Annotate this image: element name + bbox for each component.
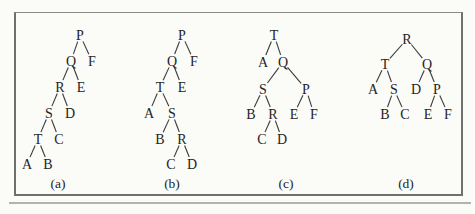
- tree-c-edge-R-C: [265, 120, 270, 132]
- tree-d-edge-R-T: [390, 44, 402, 58]
- tree-c-edge-P-E: [297, 95, 303, 107]
- tree-b-edge-R-C: [174, 145, 179, 157]
- tree-c-edge-R-D: [275, 121, 279, 132]
- tree-d-node-T: T: [381, 57, 390, 72]
- tree-b-edge-T-S: [163, 93, 169, 106]
- tree-a-node-A: A: [22, 157, 33, 172]
- tree-b-node-S: S: [168, 106, 176, 121]
- tree-c-node-B: B: [246, 107, 255, 122]
- tree-c-node-P: P: [302, 82, 310, 97]
- tree-c-edge-S-R: [266, 96, 271, 108]
- tree-b-node-C: C: [166, 157, 175, 172]
- tree-c-edge-S-B: [254, 95, 260, 107]
- tree-a-node-F: F: [88, 54, 96, 69]
- tree-b-edge-Q-T: [163, 67, 169, 80]
- tree-a-edge-P-F: [83, 41, 89, 54]
- tree-c-node-A: A: [258, 55, 269, 70]
- tree-a: PQFRESDTCAB(a): [22, 28, 96, 191]
- tree-a-edge-R-S: [52, 93, 57, 106]
- tree-b-node-T: T: [156, 80, 165, 95]
- tree-c-node-Q: Q: [278, 55, 288, 70]
- tree-a-node-Q: Q: [66, 54, 76, 69]
- tree-b-node-F: F: [190, 54, 198, 69]
- tree-b-node-R: R: [177, 132, 187, 147]
- tree-b: PQFTEASBRCD(b): [144, 28, 198, 191]
- tree-c-edge-T-A: [266, 41, 272, 55]
- tree-b-edge-P-Q: [175, 42, 180, 54]
- tree-b-edge-S-B: [163, 119, 169, 132]
- tree-a-node-P: P: [76, 28, 84, 43]
- tree-b-node-D: D: [187, 157, 197, 172]
- tree-c-node-S: S: [259, 82, 267, 97]
- tree-c-node-F: F: [310, 107, 318, 122]
- tree-a-node-C: C: [54, 132, 63, 147]
- tree-d-caption: (d): [398, 176, 414, 191]
- tree-a-edge-S-C: [52, 120, 57, 132]
- trees-svg: PQFRESDTCAB(a)PQFTEASBRCD(b)TAQSPBREFCD(…: [0, 0, 475, 214]
- tree-d-edge-P-E: [431, 96, 435, 107]
- tree-d-node-S: S: [390, 82, 398, 97]
- tree-a-edge-T-A: [30, 145, 35, 157]
- tree-b-edge-T-A: [152, 93, 157, 106]
- tree-c-edge-Q-P: [288, 67, 302, 83]
- tree-a-edge-P-Q: [73, 42, 77, 54]
- tree-d-edge-R-Q: [411, 44, 422, 58]
- tree-a-edge-Q-E: [74, 68, 79, 80]
- tree-d-node-Q: Q: [422, 57, 432, 72]
- tree-b-node-P: P: [178, 28, 186, 43]
- tree-c-edge-Q-S: [267, 68, 278, 83]
- tree-a-edge-Q-R: [63, 67, 68, 80]
- tree-c-node-T: T: [270, 28, 279, 43]
- tree-b-edge-P-F: [185, 41, 191, 54]
- tree-b-edge-R-D: [185, 146, 190, 158]
- tree-c-node-R: R: [268, 107, 278, 122]
- tree-a-caption: (a): [51, 176, 66, 191]
- tree-b-edge-Q-E: [175, 68, 180, 80]
- tree-c-edge-P-F: [308, 96, 312, 107]
- tree-c-edge-T-Q: [276, 42, 280, 55]
- tree-d-node-E: E: [424, 107, 433, 122]
- tree-d-node-D: D: [411, 82, 421, 97]
- tree-d-edge-S-C: [397, 95, 402, 107]
- tree-b-node-B: B: [155, 132, 164, 147]
- tree-d-edge-P-F: [440, 95, 445, 107]
- tree-a-edge-R-D: [63, 94, 68, 106]
- tree-c-node-E: E: [290, 107, 299, 122]
- tree-c: TAQSPBREFCD(c): [246, 28, 318, 191]
- tree-a-node-B: B: [43, 157, 52, 172]
- tree-b-caption: (b): [164, 176, 180, 191]
- tree-a-node-S: S: [45, 106, 53, 121]
- tree-d: RTQASDPBCEF(d): [368, 32, 452, 191]
- tree-d-node-F: F: [444, 107, 452, 122]
- tree-b-node-E: E: [178, 80, 187, 95]
- figure-canvas: PQFRESDTCAB(a)PQFTEASBRCD(b)TAQSPBREFCD(…: [0, 0, 475, 214]
- tree-a-node-D: D: [65, 106, 75, 121]
- tree-a-node-T: T: [34, 132, 43, 147]
- tree-d-node-P: P: [433, 82, 441, 97]
- tree-d-node-R: R: [402, 32, 412, 47]
- tree-c-caption: (c): [279, 176, 294, 191]
- tree-a-edge-S-T: [41, 119, 46, 132]
- tree-d-node-C: C: [400, 107, 409, 122]
- tree-a-node-R: R: [55, 80, 65, 95]
- tree-d-edge-Q-P: [430, 71, 435, 83]
- tree-a-node-E: E: [77, 80, 86, 95]
- tree-a-edge-T-B: [41, 146, 46, 158]
- tree-c-node-D: D: [277, 132, 287, 147]
- tree-d-node-B: B: [380, 107, 389, 122]
- tree-c-node-C: C: [257, 132, 266, 147]
- tree-b-node-A: A: [144, 106, 155, 121]
- tree-b-edge-S-R: [175, 120, 180, 132]
- tree-d-edge-Q-D: [419, 70, 424, 82]
- tree-b-node-Q: Q: [167, 54, 177, 69]
- tree-d-edge-S-B: [388, 96, 392, 107]
- tree-d-node-A: A: [368, 82, 379, 97]
- tree-d-edge-T-A: [376, 70, 382, 82]
- tree-d-edge-T-S: [387, 71, 391, 82]
